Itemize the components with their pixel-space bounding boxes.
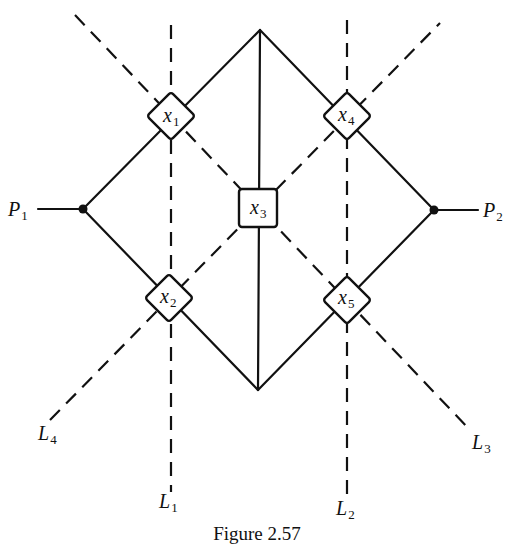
figure-caption: Figure 2.57: [213, 523, 301, 544]
label-P1: P1: [7, 198, 28, 223]
label-L2: L2: [335, 497, 355, 522]
label-L3: L3: [471, 431, 491, 456]
node-x3[interactable]: x3: [239, 189, 277, 227]
label-L1: L1: [158, 490, 178, 515]
label-P2: P2: [482, 199, 503, 224]
network-diagram: x1 x2 x3 x4 x5 P1 P2 L1 L2 L3 L4 Figure …: [0, 0, 509, 547]
junction-dot-P2: [430, 206, 439, 215]
junction-dot-P1: [79, 205, 88, 214]
label-L4: L4: [37, 422, 57, 447]
